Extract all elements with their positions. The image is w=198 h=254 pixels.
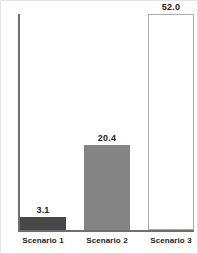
plot-area: 3.1 20.4 52.0 — [20, 14, 194, 230]
category-axis: Scenario 1 Scenario 2 Scenario 3 — [20, 235, 194, 249]
category-label-2: Scenario 2 — [76, 235, 138, 246]
bar-value-label-1: 3.1 — [20, 205, 66, 215]
bar-chart-figure: 3.1 20.4 52.0 Scenario 1 Scenario 2 Scen… — [0, 0, 198, 254]
category-label-3: Scenario 3 — [140, 235, 198, 246]
bar-rect-2[interactable] — [84, 145, 130, 230]
bar-rect-1[interactable] — [20, 217, 66, 230]
bar-rect-3[interactable] — [148, 14, 194, 230]
x-axis-line — [18, 230, 194, 232]
category-label-1: Scenario 1 — [12, 235, 74, 246]
bar-value-label-3: 52.0 — [148, 2, 194, 12]
bar-value-label-2: 20.4 — [84, 133, 130, 143]
